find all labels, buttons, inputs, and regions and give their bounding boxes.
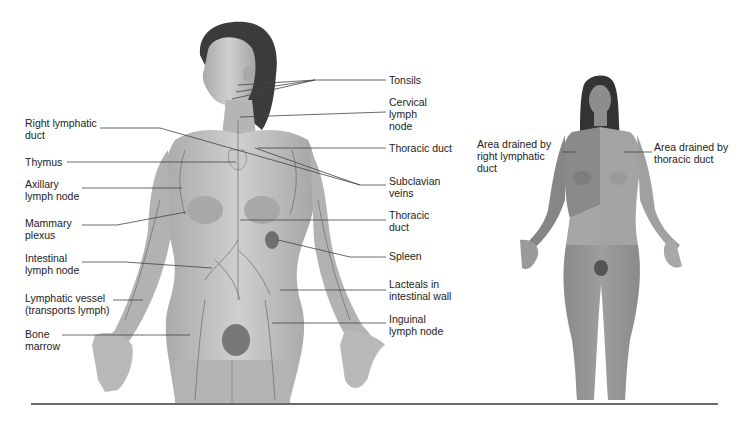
label-subclavian-veins: Subclavian veins xyxy=(389,175,440,199)
label-lacteals: Lacteals in intestinal wall xyxy=(389,278,451,302)
label-thoracic-duct-upper: Thoracic duct xyxy=(389,142,452,154)
label-right-lymphatic-drainage-area: Area drained by right lymphatic duct xyxy=(477,138,551,174)
anatomy-illustration xyxy=(0,0,751,427)
bottom-divider xyxy=(31,403,718,405)
label-tonsils: Tonsils xyxy=(389,74,421,86)
label-axillary-lymph-node: Axillary lymph node xyxy=(25,178,79,202)
label-intestinal-lymph-node: Intestinal lymph node xyxy=(25,252,79,276)
main-body-figure xyxy=(92,22,385,405)
label-cervical-lymph-node: Cervical lymph node xyxy=(389,96,427,132)
label-thoracic-duct-drainage-area: Area drained by thoracic duct xyxy=(654,141,728,165)
label-inguinal-lymph-node: Inguinal lymph node xyxy=(389,313,443,337)
label-right-lymphatic-duct: Right lymphatic duct xyxy=(25,117,97,141)
label-thymus: Thymus xyxy=(25,156,62,168)
label-lymphatic-vessel: Lymphatic vessel (transports lymph) xyxy=(25,292,110,316)
label-thoracic-duct-lower: Thoracic duct xyxy=(389,209,429,233)
label-spleen: Spleen xyxy=(389,250,422,262)
label-mammary-plexus: Mammary plexus xyxy=(25,217,72,241)
lymphatic-system-diagram: Right lymphatic duct Thymus Axillary lym… xyxy=(0,0,751,427)
label-bone-marrow: Bone marrow xyxy=(25,328,60,352)
drainage-body-figure xyxy=(520,76,682,400)
